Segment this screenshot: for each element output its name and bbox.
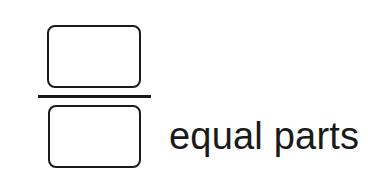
numerator-box: [47, 25, 141, 88]
equal-parts-label: equal parts: [169, 114, 359, 158]
fraction-bar: [38, 95, 151, 98]
denominator-box: [48, 105, 141, 168]
